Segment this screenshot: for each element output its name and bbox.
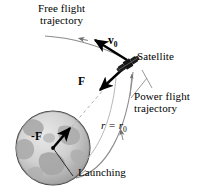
power-flight-line-2: trajectory — [134, 102, 177, 114]
free-flight-arrowhead — [80, 39, 88, 41]
power-flight-leader-line-2 — [142, 70, 152, 88]
power-flight-trajectory-label: Power flighttrajectory — [134, 91, 190, 115]
velocity-vector-label: v0 — [108, 34, 118, 49]
free-flight-line-1: Free flight — [38, 2, 85, 14]
velocity-subscript: 0 — [114, 40, 118, 49]
satellite-launch-diagram: Free flighttrajectory Satellite v0 F -F … — [0, 0, 204, 193]
radius-equation-label: r = r0 — [101, 120, 127, 134]
free-flight-line-2: trajectory — [40, 14, 83, 26]
power-flight-line-1: Power flight — [134, 90, 190, 102]
free-flight-trajectory-label: Free flighttrajectory — [38, 3, 85, 27]
launching-label: Launching — [78, 167, 126, 179]
reaction-force-vector-label: -F — [31, 130, 42, 142]
radius-subscript: 0 — [123, 125, 127, 134]
force-vector-label: F — [78, 75, 85, 87]
satellite-label: Satellite — [137, 51, 174, 63]
radius-equals: = — [105, 119, 118, 131]
